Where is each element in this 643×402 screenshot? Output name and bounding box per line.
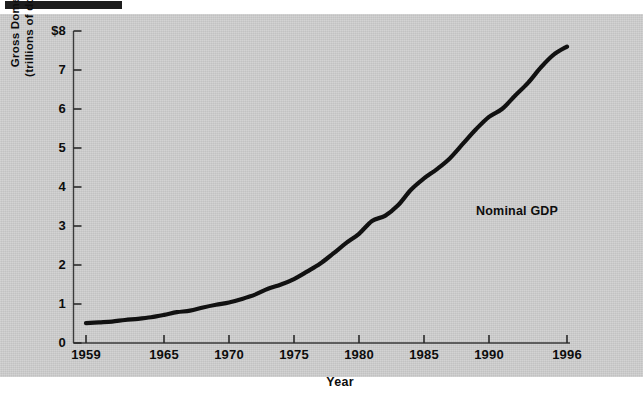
figure-page: 01234567$8 19591965197019751980198519901…	[0, 0, 643, 402]
x-tick-label-1990: 1990	[459, 347, 519, 362]
y-axis-title-line-1: Gross Domestic Product	[8, 0, 22, 92]
x-tick-label-1996: 1996	[537, 347, 597, 362]
x-tick-label-1959: 1959	[56, 347, 116, 362]
nominal-gdp-line	[86, 47, 567, 324]
y-axis-title: Gross Domestic Product (trillions of dol…	[8, 0, 36, 92]
y-tick-label-2: 2	[20, 257, 66, 272]
y-tick-label-4: 4	[20, 179, 66, 194]
y-axis-ticks	[74, 31, 82, 343]
x-axis-title: Year	[240, 375, 440, 389]
x-tick-label-1985: 1985	[394, 347, 454, 362]
y-tick-label-6: 6	[20, 101, 66, 116]
x-tick-label-1965: 1965	[134, 347, 194, 362]
x-tick-label-1970: 1970	[199, 347, 259, 362]
chart-axes	[74, 31, 571, 343]
x-tick-label-1975: 1975	[264, 347, 324, 362]
y-axis-title-line-2: (trillions of dollars per year)	[22, 0, 36, 92]
y-tick-label-5: 5	[20, 140, 66, 155]
chart-canvas	[0, 0, 643, 402]
x-tick-label-1980: 1980	[329, 347, 389, 362]
x-axis-ticks	[86, 335, 567, 343]
data-series-group	[86, 47, 567, 324]
y-tick-label-3: 3	[20, 218, 66, 233]
nominal-gdp-annotation: Nominal GDP	[476, 204, 558, 218]
y-tick-label-1: 1	[20, 296, 66, 311]
